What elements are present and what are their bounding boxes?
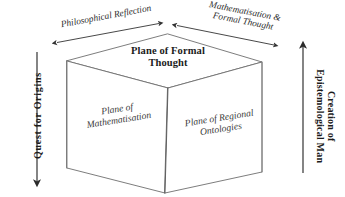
cube-diagram-svg <box>0 0 345 197</box>
diagram-canvas: Plane of Formal Thought Plane of Mathema… <box>0 0 345 197</box>
cube-wireframe <box>67 34 262 193</box>
arrow-philosophical-reflection <box>57 24 159 43</box>
